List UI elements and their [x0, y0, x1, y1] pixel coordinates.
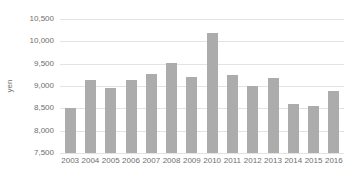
x-tick-label: 2011 [221, 156, 243, 166]
x-tick-label: 2013 [262, 156, 284, 166]
bar-2005 [105, 88, 116, 153]
bar-2004 [85, 80, 96, 153]
x-tick-label: 2009 [181, 156, 203, 166]
x-tick-label: 2015 [303, 156, 325, 166]
x-tick-label: 2007 [140, 156, 162, 166]
gridline [60, 41, 344, 42]
bar-2003 [65, 108, 76, 153]
bar-2006 [126, 80, 137, 153]
y-tick-label: 10,000 [0, 36, 54, 46]
bar-2014 [288, 104, 299, 153]
bar-chart: yen 7,5008,0008,5009,0009,50010,00010,50… [0, 0, 353, 181]
x-tick-label: 2005 [100, 156, 122, 166]
x-tick-label: 2012 [242, 156, 264, 166]
y-tick-label: 9,500 [0, 59, 54, 69]
bar-2015 [308, 106, 319, 153]
plot-area [60, 19, 344, 153]
bar-2010 [207, 33, 218, 153]
x-tick-label: 2006 [120, 156, 142, 166]
y-tick-label: 9,000 [0, 81, 54, 91]
y-axis-tick-labels: 7,5008,0008,5009,0009,50010,00010,500 [0, 0, 54, 181]
x-axis-tick-labels: 2003200420052006200720082009201020112012… [0, 156, 353, 168]
x-tick-label: 2010 [201, 156, 223, 166]
bar-2008 [166, 63, 177, 153]
bar-2011 [227, 75, 238, 153]
gridline [60, 131, 344, 132]
x-tick-label: 2016 [323, 156, 345, 166]
x-tick-label: 2008 [161, 156, 183, 166]
x-tick-label: 2004 [79, 156, 101, 166]
y-tick-label: 8,500 [0, 103, 54, 113]
x-tick-label: 2014 [282, 156, 304, 166]
y-tick-label: 10,500 [0, 14, 54, 24]
gridline [60, 19, 344, 20]
gridline [60, 64, 344, 65]
bar-2012 [247, 86, 258, 153]
gridline [60, 86, 344, 87]
bar-2016 [328, 91, 339, 153]
bar-2013 [268, 78, 279, 153]
gridline [60, 108, 344, 109]
x-tick-label: 2003 [59, 156, 81, 166]
bar-2007 [146, 74, 157, 153]
y-tick-label: 8,000 [0, 126, 54, 136]
bar-2009 [186, 77, 197, 153]
gridline [60, 153, 344, 154]
